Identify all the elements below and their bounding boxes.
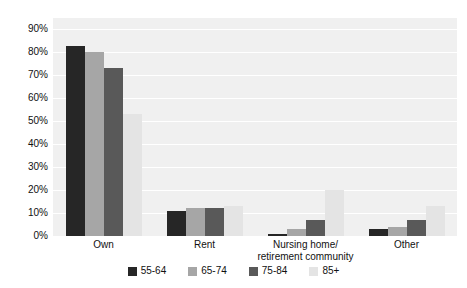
legend-item[interactable]: 65-74 (188, 266, 227, 276)
gridlines (53, 18, 457, 236)
y-axis-tick-label: 80% (0, 47, 48, 57)
gridline (53, 98, 457, 99)
bar-chart: 0%10%20%30%40%50%60%70%80%90% OwnRentNur… (0, 0, 467, 288)
y-axis-tick-label: 40% (0, 139, 48, 149)
x-axis-label-line: Own (53, 239, 154, 251)
gridline (53, 52, 457, 53)
y-axis-tick-label: 90% (0, 24, 48, 34)
x-axis-category-label: Rent (154, 239, 255, 263)
x-axis-label-line: Rent (154, 239, 255, 251)
legend-item[interactable]: 85+ (309, 266, 339, 276)
legend-swatch-icon (249, 267, 258, 276)
legend-label: 55-64 (141, 266, 167, 276)
y-axis-tick-label: 50% (0, 116, 48, 126)
gridline (53, 213, 457, 214)
x-axis-label-line: retirement community (255, 251, 356, 263)
x-axis-label-line: Other (356, 239, 457, 251)
gridline (53, 75, 457, 76)
y-axis-tick-label: 70% (0, 70, 48, 80)
y-axis: 0%10%20%30%40%50%60%70%80%90% (0, 18, 48, 236)
y-axis-tick-label: 60% (0, 93, 48, 103)
legend-item[interactable]: 55-64 (128, 266, 167, 276)
y-axis-tick-label: 30% (0, 162, 48, 172)
y-axis-tick-label: 10% (0, 208, 48, 218)
x-axis-category-label: Nursing home/retirement community (255, 239, 356, 263)
y-axis-tick-label: 20% (0, 185, 48, 195)
x-axis-label-line: Nursing home/ (255, 239, 356, 251)
legend-label: 65-74 (201, 266, 227, 276)
gridline (53, 121, 457, 122)
legend-label: 75-84 (262, 266, 288, 276)
y-axis-tick-label: 0% (0, 231, 48, 241)
legend-swatch-icon (309, 267, 318, 276)
gridline (53, 144, 457, 145)
gridline (53, 190, 457, 191)
legend-label: 85+ (322, 266, 339, 276)
legend: 55-6465-7475-8485+ (0, 266, 467, 276)
x-axis: OwnRentNursing home/retirement community… (53, 239, 457, 263)
x-axis-category-label: Own (53, 239, 154, 263)
gridline (53, 29, 457, 30)
legend-swatch-icon (188, 267, 197, 276)
legend-swatch-icon (128, 267, 137, 276)
legend-item[interactable]: 75-84 (249, 266, 288, 276)
gridline (53, 167, 457, 168)
x-axis-category-label: Other (356, 239, 457, 263)
plot-area (53, 18, 457, 236)
